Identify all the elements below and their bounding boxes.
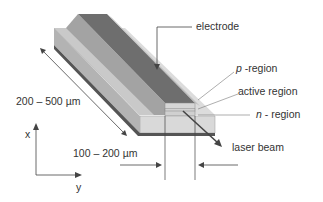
x-axis-label: x — [25, 128, 31, 140]
electrode-leader — [157, 27, 192, 66]
p-region-label: p -region — [235, 62, 278, 74]
active-region-leader — [198, 94, 238, 109]
n-region-face — [165, 111, 195, 116]
p-region-face — [165, 103, 195, 109]
laser-diode-diagram: electrode p -region active region n - re… — [0, 0, 323, 202]
laser-beam-label: laser beam — [232, 141, 284, 153]
electrode-label: electrode — [196, 20, 239, 32]
n-region-label: n - region — [256, 108, 301, 120]
y-axis-label: y — [76, 181, 82, 193]
length-dimension-label: 200 – 500 µm — [16, 95, 81, 107]
width-arrow-left-head — [156, 162, 162, 168]
active-region-label: active region — [238, 85, 298, 97]
y-axis-arrowhead — [75, 172, 82, 178]
n-region-rest: - region — [262, 108, 301, 120]
width-dimension-label: 100 – 200 µm — [73, 147, 138, 159]
width-arrow-right-head — [198, 162, 204, 168]
active-region-layer — [165, 109, 195, 111]
x-axis-arrowhead — [33, 123, 39, 130]
p-region-leader — [198, 72, 234, 100]
p-region-rest: -region — [242, 62, 278, 74]
